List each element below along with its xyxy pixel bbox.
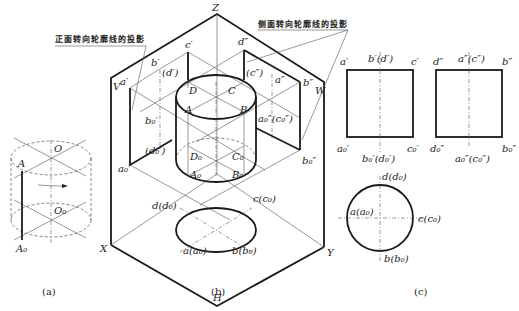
svg-text:(c″): (c″): [246, 67, 263, 78]
svg-text:c′: c′: [411, 56, 420, 67]
label-O0: O₀: [54, 205, 66, 216]
svg-text:c₀′: c₀′: [407, 143, 420, 154]
side-contour-note: 侧面转向轮廓线的投影: [258, 19, 348, 29]
svg-text:Y: Y: [327, 247, 335, 258]
svg-text:a′: a′: [340, 56, 349, 67]
svg-text:X: X: [99, 243, 108, 254]
svg-text:b₀″: b₀″: [502, 143, 516, 154]
rotation-arrow-icon: [38, 185, 62, 186]
svg-text:b₀′(d₀′): b₀′(d₀′): [362, 153, 395, 164]
svg-text:a′: a′: [120, 76, 129, 87]
svg-text:b′(d′): b′(d′): [368, 53, 393, 64]
svg-text:a₀′: a₀′: [118, 163, 131, 174]
label-A0: A₀: [15, 243, 27, 254]
svg-text:B₀: B₀: [231, 169, 243, 180]
svg-text:C₀: C₀: [232, 151, 244, 162]
svg-text:a(a₀): a(a₀): [350, 206, 374, 217]
svg-text:D₀: D₀: [189, 151, 202, 162]
svg-text:(d′): (d′): [162, 67, 179, 78]
svg-text:a″: a″: [275, 74, 285, 85]
svg-text:d(d₀): d(d₀): [152, 200, 177, 211]
svg-text:b₀″: b₀″: [302, 155, 316, 166]
svg-text:a₀′: a₀′: [337, 143, 350, 154]
svg-text:C: C: [228, 85, 236, 96]
svg-text:b₀′: b₀′: [145, 115, 158, 126]
projection-diagram: O O₀ A A₀ (a): [0, 0, 519, 311]
svg-text:D: D: [188, 85, 197, 96]
svg-text:b″: b″: [303, 77, 313, 88]
svg-text:A: A: [184, 104, 192, 115]
svg-text:d″: d″: [238, 36, 248, 47]
caption-c: (c): [414, 286, 428, 297]
front-contour-note: 正面转向轮廓线的投影: [55, 34, 145, 44]
label-O: O: [54, 143, 62, 154]
svg-text:b′: b′: [151, 57, 160, 68]
svg-text:b(b₀): b(b₀): [232, 245, 257, 256]
svg-text:b″: b″: [502, 56, 512, 67]
svg-text:b(b₀): b(b₀): [384, 253, 409, 264]
svg-text:a″(c″): a″(c″): [458, 53, 485, 64]
svg-text:a(a₀): a(a₀): [183, 245, 207, 256]
svg-text:a₀″(c₀″): a₀″(c₀″): [258, 113, 293, 124]
svg-text:d₀″: d₀″: [430, 143, 444, 154]
svg-text:d″: d″: [433, 56, 443, 67]
svg-text:d(d₀): d(d₀): [382, 171, 407, 182]
svg-text:c(c₀): c(c₀): [418, 213, 441, 224]
caption-b: (b): [211, 286, 225, 297]
label-A: A: [17, 158, 25, 169]
vw-plane-border: [111, 14, 324, 247]
panel-a-cylinder: O O₀ A A₀ (a): [11, 138, 91, 297]
svg-text:c′: c′: [185, 39, 194, 50]
svg-text:c(c₀): c(c₀): [253, 193, 276, 204]
panel-c-three-views: a′ b′(d′) c′ a₀′ b₀′(d₀′) c₀′ d″ a″(c″) …: [337, 52, 516, 297]
panel-b-isometric: Z X Y H V W D C A B D₀ C₀ A₀ B₀ a′ b′ c′…: [99, 2, 335, 306]
svg-text:a₀″(c₀″): a₀″(c₀″): [455, 153, 490, 164]
caption-a: (a): [42, 286, 56, 297]
svg-text:Z: Z: [211, 2, 220, 13]
svg-text:A₀: A₀: [189, 169, 201, 180]
svg-text:(d₀′): (d₀′): [145, 145, 166, 156]
svg-text:B: B: [239, 104, 247, 115]
